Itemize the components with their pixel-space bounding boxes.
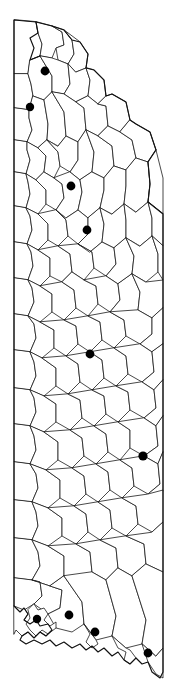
map-marker-dot[interactable] (26, 103, 34, 111)
map-container: County map with highlighted locations (0, 0, 177, 699)
map-marker-dot[interactable] (86, 350, 95, 359)
map-marker-dot[interactable] (91, 628, 100, 637)
map-marker-dot[interactable] (138, 451, 147, 460)
map-marker-dot[interactable] (65, 611, 74, 620)
map-marker-dot[interactable] (67, 182, 76, 191)
county-boundaries-group (14, 20, 163, 678)
map-marker-dot[interactable] (83, 226, 92, 235)
map-marker-dot[interactable] (33, 615, 41, 623)
map-marker-dot[interactable] (41, 67, 50, 76)
map-marker-dot[interactable] (144, 649, 153, 658)
county-map-svg (0, 0, 177, 699)
